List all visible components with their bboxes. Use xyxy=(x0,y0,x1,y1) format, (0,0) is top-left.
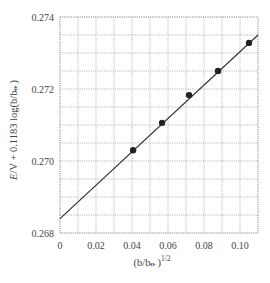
data-point xyxy=(159,120,165,126)
data-point xyxy=(186,92,192,98)
y-tick-label: 0.274 xyxy=(32,12,55,23)
x-tick-label: 0.02 xyxy=(87,240,105,251)
y-tick-label: 0.272 xyxy=(32,84,55,95)
x-tick-label: 0.10 xyxy=(231,240,249,251)
fit-line xyxy=(60,35,258,219)
x-tick-label: 0.04 xyxy=(123,240,141,251)
x-axis-label: (b/b⦵)1/2 xyxy=(133,254,170,269)
data-point xyxy=(246,40,252,46)
x-tick-label: 0 xyxy=(58,240,63,251)
y-tick-label: 0.270 xyxy=(32,156,55,167)
y-tick-label: 0.268 xyxy=(32,228,55,239)
x-tick-label: 0.06 xyxy=(159,240,177,251)
x-tick-label: 0.08 xyxy=(195,240,213,251)
chart: 00.020.040.060.080.100.2680.2700.2720.27… xyxy=(0,0,270,283)
data-point xyxy=(130,147,136,153)
data-point xyxy=(215,68,221,74)
grid xyxy=(60,17,258,233)
y-axis-label: E/V + 0.1183 log(b/b⦵) xyxy=(8,80,20,181)
